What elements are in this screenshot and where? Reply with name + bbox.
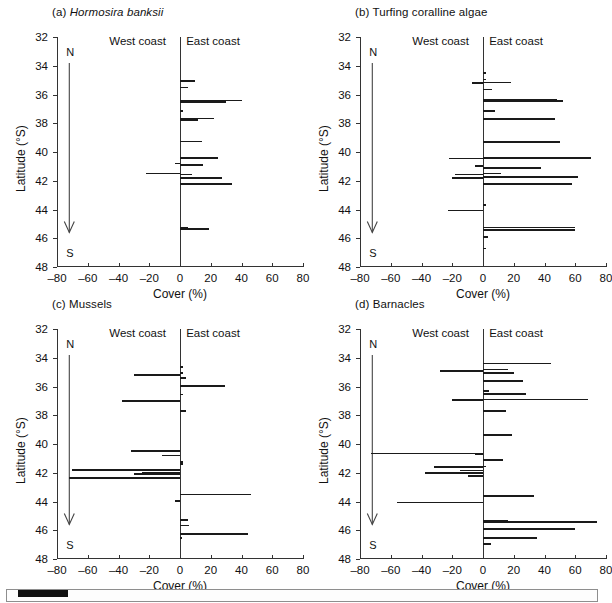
y-tick-a-48 xyxy=(53,267,57,268)
x-tick-label-c-4: 0 xyxy=(177,564,183,576)
x-tick-label-d-7: 60 xyxy=(569,564,582,576)
y-tick-label-a-34: 34 xyxy=(35,60,48,72)
panel-title-a: (a) Hormosira banksii xyxy=(52,6,163,18)
x-tick-label-a-6: 40 xyxy=(235,272,248,284)
data-bar xyxy=(180,174,192,176)
north-label-c: N xyxy=(66,338,74,350)
data-bar xyxy=(371,453,483,455)
y-tick-label-c-40: 40 xyxy=(35,438,48,450)
data-bar xyxy=(452,177,483,179)
y-tick-label-a-44: 44 xyxy=(35,204,48,216)
data-bar xyxy=(483,543,491,545)
data-bar xyxy=(483,72,486,74)
data-bar xyxy=(483,89,492,91)
data-bar xyxy=(475,453,483,455)
north-label-a: N xyxy=(66,46,74,58)
y-tick-label-a-48: 48 xyxy=(35,261,48,273)
y-tick-label-a-42: 42 xyxy=(35,175,48,187)
y-tick-label-d-38: 38 xyxy=(338,409,351,421)
x-tick-label-d-2: –40 xyxy=(412,564,431,576)
data-bar xyxy=(180,183,232,185)
y-tick-label-d-44: 44 xyxy=(338,496,351,508)
data-bar xyxy=(180,519,188,521)
data-bar xyxy=(180,87,188,89)
x-tick-label-a-4: 0 xyxy=(177,272,183,284)
x-tick-label-c-3: –20 xyxy=(140,564,159,576)
data-bar xyxy=(483,369,508,371)
data-bar xyxy=(483,79,486,81)
data-bar xyxy=(483,248,486,250)
data-bar xyxy=(448,210,483,212)
data-bar xyxy=(483,118,555,120)
data-bar xyxy=(483,363,551,365)
west-coast-label-b: West coast xyxy=(412,35,469,47)
data-bar xyxy=(134,473,180,475)
panel-b: (b) Turfing coralline algaeLatitude (°S)… xyxy=(303,0,599,280)
data-bar xyxy=(180,157,218,159)
y-tick-label-c-46: 46 xyxy=(35,524,48,536)
data-bar xyxy=(180,119,198,121)
data-bar xyxy=(180,385,225,387)
x-tick-label-d-5: 20 xyxy=(507,564,520,576)
y-tick-b-48 xyxy=(356,267,360,268)
x-tick-b-8 xyxy=(606,263,607,267)
data-bar xyxy=(397,502,483,504)
data-bar xyxy=(483,236,488,238)
y-tick-label-c-38: 38 xyxy=(35,409,48,421)
data-bar xyxy=(475,165,483,167)
south-label-b: S xyxy=(369,247,376,259)
x-tick-label-a-7: 60 xyxy=(266,272,279,284)
data-bar xyxy=(180,164,203,166)
west-coast-label-a: West coast xyxy=(109,35,166,47)
data-bar xyxy=(72,469,180,471)
east-coast-label-a: East coast xyxy=(186,35,240,47)
data-bar xyxy=(180,177,222,179)
y-axis-title-b: Latitude (°S) xyxy=(317,125,331,192)
x-tick-label-d-1: –60 xyxy=(381,564,400,576)
data-bar xyxy=(180,494,251,496)
data-bar xyxy=(483,173,501,175)
data-bar xyxy=(131,450,180,452)
x-tick-label-b-4: 0 xyxy=(480,272,486,284)
y-tick-label-d-32: 32 xyxy=(338,323,351,335)
data-bar xyxy=(468,475,483,477)
north-south-arrow-a xyxy=(57,37,303,267)
data-bar xyxy=(483,204,486,206)
x-tick-label-a-5: 20 xyxy=(204,272,217,284)
data-bar xyxy=(440,370,483,372)
y-tick-label-b-34: 34 xyxy=(338,60,351,72)
panel-tag-a: (a) xyxy=(52,6,66,18)
y-tick-label-b-36: 36 xyxy=(338,89,351,101)
data-bar xyxy=(472,82,483,84)
data-bar xyxy=(180,141,202,143)
data-bar xyxy=(483,82,511,84)
x-tick-label-c-7: 60 xyxy=(266,564,279,576)
y-tick-label-a-46: 46 xyxy=(35,232,48,244)
data-bar xyxy=(483,141,560,143)
y-tick-label-c-42: 42 xyxy=(35,467,48,479)
data-bar xyxy=(483,521,597,523)
y-tick-label-c-34: 34 xyxy=(35,352,48,364)
x-tick-label-c-5: 20 xyxy=(204,564,217,576)
data-bar xyxy=(180,366,183,368)
data-bar xyxy=(180,110,183,112)
x-tick-label-d-6: 40 xyxy=(538,564,551,576)
west-coast-label-c: West coast xyxy=(109,327,166,339)
x-tick-label-b-7: 60 xyxy=(569,272,582,284)
y-tick-label-d-42: 42 xyxy=(338,467,351,479)
y-tick-label-c-36: 36 xyxy=(35,381,48,393)
data-bar xyxy=(122,400,180,402)
x-tick-label-b-0: –80 xyxy=(350,272,369,284)
data-bar xyxy=(180,80,195,82)
panel-tag-d: (d) xyxy=(355,298,369,310)
data-bar xyxy=(483,495,534,497)
data-bar xyxy=(483,183,572,185)
panel-c: (c) MusselsLatitude (°S)3234363840424446… xyxy=(0,292,296,572)
east-coast-label-d: East coast xyxy=(489,327,543,339)
y-tick-label-b-32: 32 xyxy=(338,31,351,43)
data-bar xyxy=(455,174,483,176)
data-bar xyxy=(162,455,180,457)
y-tick-label-b-46: 46 xyxy=(338,232,351,244)
x-tick-label-b-6: 40 xyxy=(538,272,551,284)
